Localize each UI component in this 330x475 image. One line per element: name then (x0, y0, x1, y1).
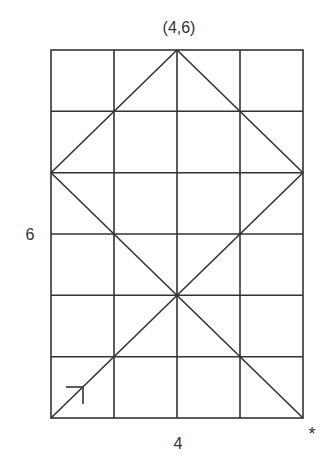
left-label: 6 (26, 226, 35, 243)
grid-lines (51, 50, 303, 418)
corner-mark: * (308, 424, 315, 444)
grid-diagram: (4,6) 6 4 * (0, 0, 330, 475)
top-label: (4,6) (163, 19, 196, 36)
bottom-label: 4 (174, 435, 183, 452)
